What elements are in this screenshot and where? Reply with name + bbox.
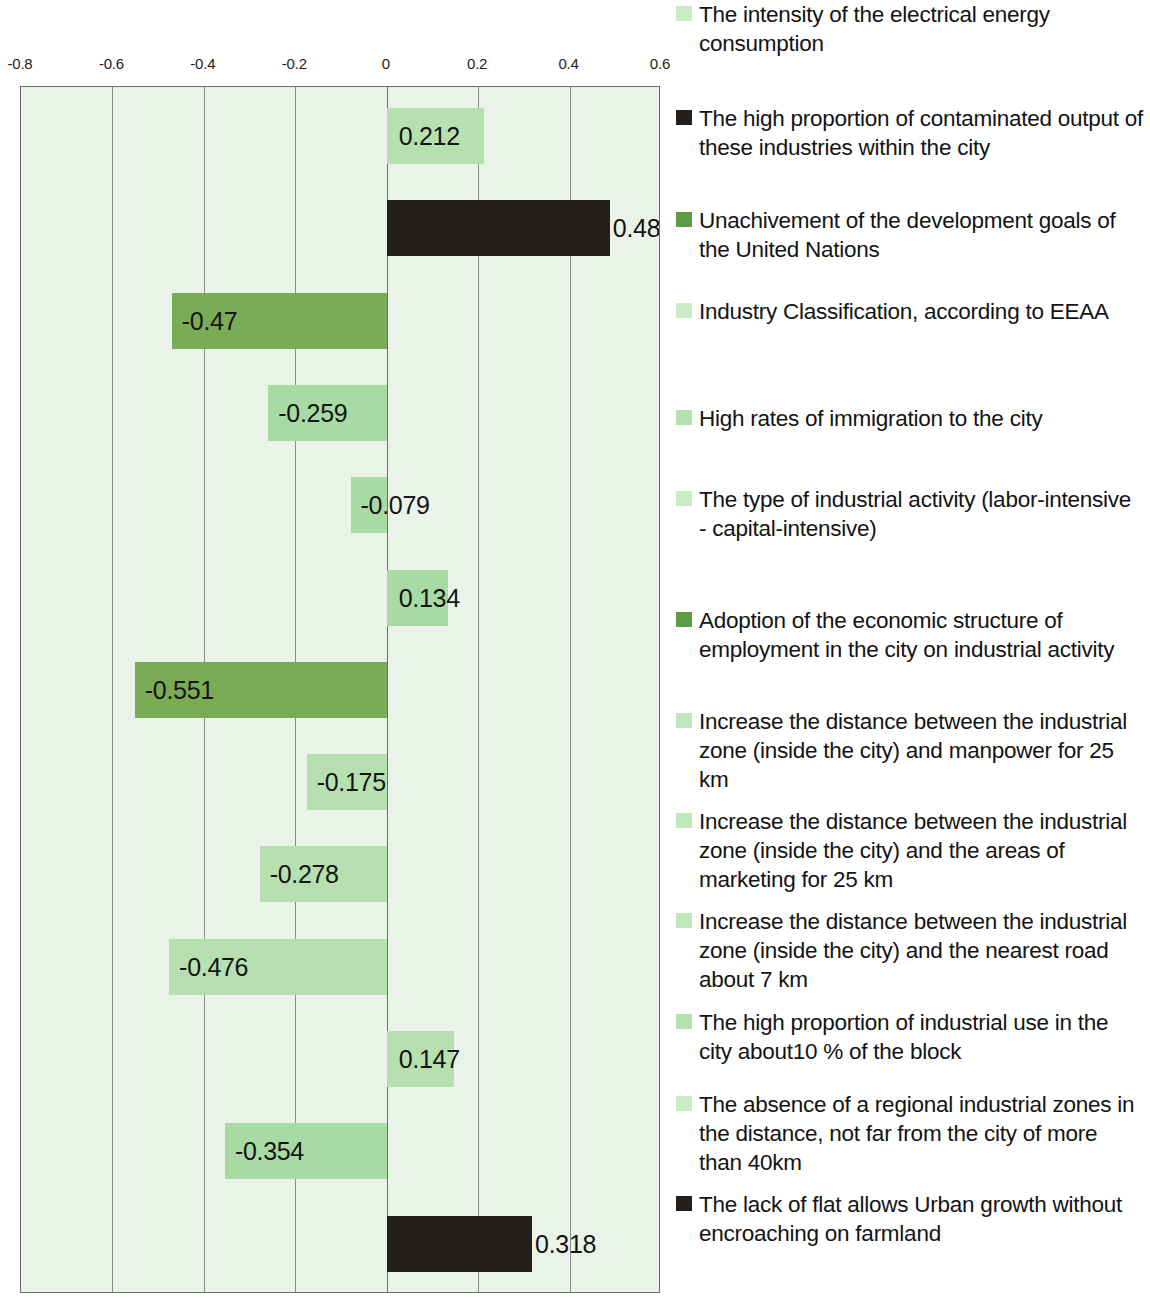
legend-item[interactable]: The high proportion of contaminated outp… [676, 104, 1144, 162]
legend-item[interactable]: High rates of immigration to the city [676, 404, 1144, 433]
legend-label: Increase the distance between the indust… [699, 907, 1144, 994]
legend-swatch-icon [676, 612, 692, 627]
legend-label: The high proportion of industrial use in… [699, 1008, 1144, 1066]
legend-item[interactable]: Unachivement of the development goals of… [676, 206, 1144, 264]
legend-label: The intensity of the electrical energy c… [699, 0, 1144, 58]
legend-swatch-icon [676, 1096, 692, 1111]
bar-value-label: -0.259 [278, 385, 347, 441]
legend-swatch-icon [676, 1014, 692, 1029]
legend-label: High rates of immigration to the city [699, 404, 1042, 433]
bar-value-label: -0.079 [361, 477, 430, 533]
bar-row: 0.147 [21, 1031, 659, 1087]
legend-item[interactable]: The absence of a regional industrial zon… [676, 1090, 1144, 1177]
x-axis-tick-0: -0.8 [7, 55, 32, 72]
legend-swatch-icon [676, 913, 692, 928]
x-axis-tick-3: -0.2 [282, 55, 307, 72]
bar-value-label: 0.212 [399, 108, 460, 164]
bar-row: -0.079 [21, 477, 659, 533]
bar[interactable] [387, 200, 610, 256]
x-axis-tick-4: 0 [382, 55, 390, 72]
x-axis-tick-2: -0.4 [190, 55, 215, 72]
x-axis-tick-1: -0.6 [99, 55, 124, 72]
bar[interactable] [387, 1216, 532, 1272]
x-axis-tick-5: 0.2 [467, 55, 487, 72]
bar-value-label: -0.175 [317, 754, 386, 810]
legend-item[interactable]: The type of industrial activity (labor-i… [676, 485, 1144, 543]
bar-value-label: -0.278 [270, 846, 339, 902]
bar-row: -0.354 [21, 1123, 659, 1179]
legend-item[interactable]: The lack of flat allows Urban growth wit… [676, 1190, 1144, 1248]
bar-row: -0.175 [21, 754, 659, 810]
bar-value-label: -0.476 [179, 939, 248, 995]
bar-row: 0.318 [21, 1216, 659, 1272]
bar-row: -0.278 [21, 846, 659, 902]
legend-swatch-icon [676, 110, 692, 125]
bar-row: -0.476 [21, 939, 659, 995]
legend-label: The high proportion of contaminated outp… [699, 104, 1144, 162]
bar-value-label: 0.488 [613, 200, 660, 256]
legend-label: The type of industrial activity (labor-i… [699, 485, 1144, 543]
bar-row: 0.134 [21, 570, 659, 626]
bar-value-label: -0.47 [182, 293, 237, 349]
bar-row: -0.551 [21, 662, 659, 718]
bar-chart: -0.8-0.6-0.4-0.200.20.40.6 0.2120.488-0.… [0, 0, 672, 1302]
x-axis-tick-labels: -0.8-0.6-0.4-0.200.20.40.6 [0, 55, 672, 81]
bar-value-label: -0.354 [235, 1123, 304, 1179]
bar-value-label: -0.551 [145, 662, 214, 718]
bar-row: -0.47 [21, 293, 659, 349]
legend-label: The absence of a regional industrial zon… [699, 1090, 1144, 1177]
legend-label: Adoption of the economic structure of em… [699, 606, 1144, 664]
legend-item[interactable]: Industry Classification, according to EE… [676, 297, 1144, 326]
legend-label: Unachivement of the development goals of… [699, 206, 1144, 264]
x-axis-tick-7: 0.6 [650, 55, 670, 72]
legend-swatch-icon [676, 212, 692, 227]
legend-item[interactable]: Increase the distance between the indust… [676, 707, 1144, 794]
legend-item[interactable]: The intensity of the electrical energy c… [676, 0, 1144, 58]
x-axis-tick-6: 0.4 [558, 55, 578, 72]
legend-swatch-icon [676, 303, 692, 318]
bar-value-label: 0.318 [535, 1216, 596, 1272]
legend-item[interactable]: Increase the distance between the indust… [676, 907, 1144, 994]
legend-label: Increase the distance between the indust… [699, 807, 1144, 894]
legend-item[interactable]: Increase the distance between the indust… [676, 807, 1144, 894]
legend-label: The lack of flat allows Urban growth wit… [699, 1190, 1144, 1248]
bar-row: -0.259 [21, 385, 659, 441]
legend-swatch-icon [676, 410, 692, 425]
chart-page: -0.8-0.6-0.4-0.200.20.40.6 0.2120.488-0.… [0, 0, 1150, 1302]
legend-swatch-icon [676, 491, 692, 506]
legend-label: Increase the distance between the indust… [699, 707, 1144, 794]
bar-value-label: 0.147 [399, 1031, 460, 1087]
legend-swatch-icon [676, 6, 692, 21]
legend-item[interactable]: Adoption of the economic structure of em… [676, 606, 1144, 664]
bar-value-label: 0.134 [399, 570, 460, 626]
bar-row: 0.488 [21, 200, 659, 256]
legend-item[interactable]: The high proportion of industrial use in… [676, 1008, 1144, 1066]
plot-area: 0.2120.488-0.47-0.259-0.0790.134-0.551-0… [20, 86, 660, 1293]
legend-swatch-icon [676, 713, 692, 728]
legend-label: Industry Classification, according to EE… [699, 297, 1109, 326]
bar-row: 0.212 [21, 108, 659, 164]
chart-legend: The intensity of the electrical energy c… [676, 0, 1150, 1302]
legend-swatch-icon [676, 1196, 692, 1211]
legend-swatch-icon [676, 813, 692, 828]
